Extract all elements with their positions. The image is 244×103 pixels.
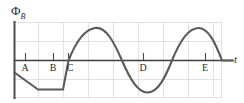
x-tick-label-a: A [21,63,28,73]
x-axis-ticks [26,53,206,60]
flux-graph-figure: ΦB t A B C D E [0,0,244,103]
x-tick-label-b: B [50,63,57,73]
x-tick-label-c: C [67,63,74,73]
y-axis-label-symbol: Φ [11,3,21,18]
y-axis-label-subscript: B [21,12,26,21]
x-axis-label: t [234,54,237,65]
plot-canvas [0,0,244,103]
x-tick-label-d: D [139,63,146,73]
y-axis-label: ΦB [11,4,25,21]
x-tick-label-e: E [202,63,208,73]
